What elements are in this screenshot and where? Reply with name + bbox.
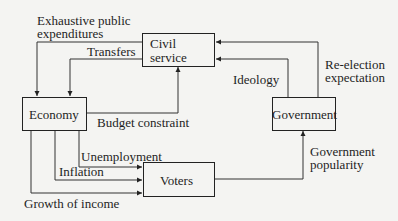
label-inflation: Inflation (59, 165, 104, 178)
node-civil-service-line2: service (150, 51, 187, 64)
node-civil-service: Civil service (142, 33, 215, 67)
edge-re-election-expectation (216, 42, 318, 97)
label-growth-of-income: Growth of income (24, 197, 119, 210)
politico-economic-diagram: Civil service Economy Government Voters … (0, 0, 398, 221)
edge-budget-constraint (86, 67, 178, 113)
label-ideology: Ideology (233, 73, 279, 86)
node-voters-label: Voters (160, 174, 193, 187)
label-transfers: Transfers (87, 45, 136, 58)
edge-government-popularity (214, 131, 303, 179)
label-unemployment: Unemployment (81, 150, 162, 163)
node-voters: Voters (143, 162, 215, 197)
node-civil-service-line1: Civil (150, 37, 176, 50)
node-government-label: Government (272, 108, 337, 121)
label-budget-constraint: Budget constraint (97, 116, 189, 129)
node-economy-label: Economy (29, 108, 79, 121)
node-government: Government (272, 97, 336, 131)
label-re-election-2: expectation (325, 71, 385, 84)
label-exhaustive-public-expenditures-2: expenditures (37, 27, 103, 40)
label-government-popularity-2: popularity (310, 158, 363, 171)
edge-transfers (70, 59, 143, 96)
node-economy: Economy (22, 97, 87, 131)
